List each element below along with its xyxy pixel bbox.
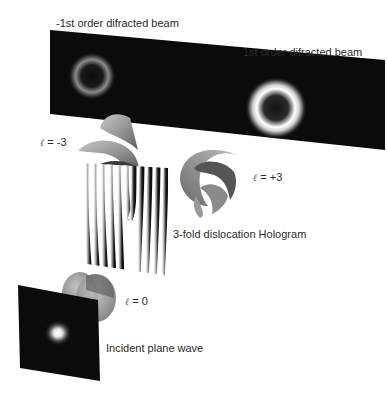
diagram-canvas (0, 0, 387, 399)
incident-screen (18, 285, 100, 381)
helical-wavefront-minus3 (78, 114, 140, 170)
helical-wavefront-plus3 (180, 150, 238, 218)
label-hologram: 3-fold dislocation Hologram (173, 228, 306, 240)
gaussian-spot (44, 320, 72, 346)
ell-symbol: ℓ (40, 137, 44, 148)
label-l-plus3: ℓ = +3 (253, 171, 282, 183)
minus-first-order-ring (68, 52, 116, 100)
ell-symbol: ℓ (253, 172, 257, 183)
label-incident: Incident plane wave (106, 342, 203, 354)
label-l-minus3: ℓ = -3 (40, 136, 67, 148)
first-order-ring (245, 77, 307, 139)
ell-symbol: ℓ (125, 296, 129, 307)
label-minus-first-order: -1st order difracted beam (56, 17, 179, 29)
label-first-order: 1st order difracted beam (243, 46, 362, 58)
fork-hologram (80, 160, 172, 280)
label-l-zero: ℓ = 0 (125, 295, 148, 307)
